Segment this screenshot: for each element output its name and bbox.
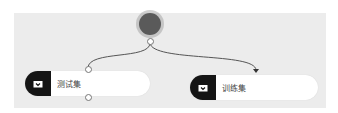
test-output-port[interactable] (85, 94, 92, 101)
node-label: 测试集 (57, 78, 81, 89)
dataset-icon (190, 75, 216, 100)
source-output-port[interactable] (147, 38, 154, 45)
test-input-port[interactable] (85, 66, 92, 73)
source-node[interactable] (139, 13, 161, 35)
node-train-set[interactable]: 训练集 (190, 75, 318, 100)
arrow-head-icon (253, 69, 259, 73)
node-label: 训练集 (222, 82, 246, 93)
edge-to-test[interactable] (88, 43, 150, 68)
node-test-set[interactable]: 测试集 (25, 71, 150, 96)
edge-to-train[interactable] (150, 43, 256, 70)
dataset-icon (25, 71, 51, 96)
